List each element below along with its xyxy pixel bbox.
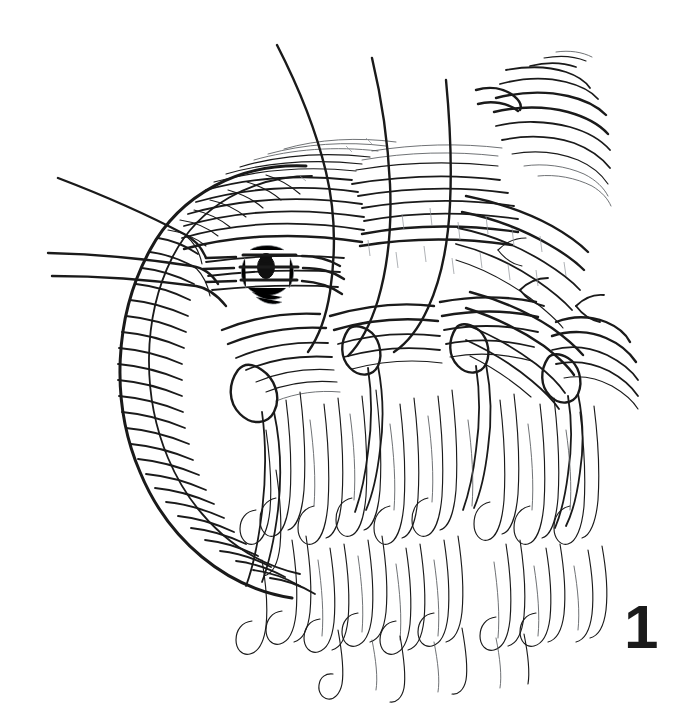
surface-texture xyxy=(300,138,566,286)
figure-panel: 1 xyxy=(0,0,698,711)
upper-right-seta-bundle xyxy=(476,51,611,206)
anterior-setae-group xyxy=(48,178,226,306)
line-drawing-canvas xyxy=(0,0,698,711)
figure-number-label: 1 xyxy=(624,596,658,658)
marginal-seta-comb xyxy=(118,175,315,594)
large-clavate-hairs xyxy=(231,324,583,586)
clavate-hair-field xyxy=(236,390,607,702)
